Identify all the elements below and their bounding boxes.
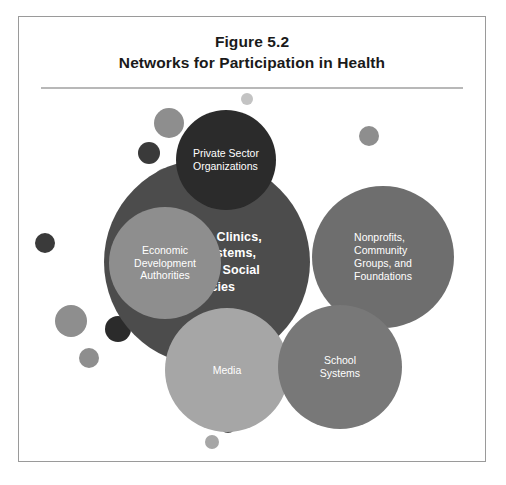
network-node-economic-development[interactable]: Economic Development Authorities xyxy=(109,207,221,319)
decorative-dot xyxy=(35,233,55,253)
decorative-dot xyxy=(138,142,160,164)
network-node-label-school-systems: School Systems xyxy=(314,354,366,380)
decorative-dot xyxy=(241,93,253,105)
bubble-network-diagram: Hospitals, Clinics, Health Systems, Heal… xyxy=(19,95,485,461)
figure-header: Figure 5.2 Networks for Participation in… xyxy=(19,31,485,73)
figure-number: Figure 5.2 xyxy=(19,31,485,52)
network-node-label-economic-development: Economic Development Authorities xyxy=(128,244,202,282)
network-node-label-nonprofits: Nonprofits, Community Groups, and Founda… xyxy=(348,231,418,282)
network-node-school-systems[interactable]: School Systems xyxy=(278,305,402,429)
network-node-label-private-sector: Private Sector Organizations xyxy=(187,147,265,173)
network-node-private-sector[interactable]: Private Sector Organizations xyxy=(176,110,276,210)
network-node-label-media: Media xyxy=(207,364,248,377)
title-divider xyxy=(41,87,463,89)
figure-frame: Figure 5.2 Networks for Participation in… xyxy=(18,16,486,462)
decorative-dot xyxy=(79,348,99,368)
decorative-dot xyxy=(205,435,219,449)
decorative-dot xyxy=(154,108,184,138)
figure-title: Networks for Participation in Health xyxy=(19,52,485,73)
decorative-dot xyxy=(359,126,379,146)
decorative-dot xyxy=(55,305,87,337)
network-node-media[interactable]: Media xyxy=(165,308,289,432)
